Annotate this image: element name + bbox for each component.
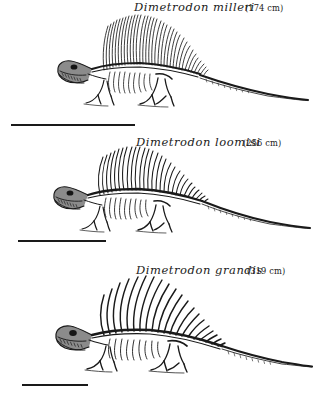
scale-bar bbox=[18, 240, 106, 242]
skull bbox=[58, 61, 92, 83]
rib-cage bbox=[109, 72, 153, 93]
skull bbox=[54, 187, 88, 209]
species-name-label: Dimetrodon milleri bbox=[134, 0, 255, 14]
body-length-label: (174 cm) bbox=[245, 3, 283, 13]
skull bbox=[56, 326, 92, 350]
forelimb bbox=[87, 346, 117, 371]
sail-spines bbox=[103, 15, 208, 76]
hindlimb bbox=[138, 205, 172, 232]
rib-cage bbox=[105, 198, 149, 219]
body-length-label: (319 cm) bbox=[247, 266, 285, 276]
tail bbox=[200, 75, 308, 100]
caption-row: Dimetrodon loomisi (256 cm) bbox=[0, 135, 318, 157]
hindlimb bbox=[151, 344, 187, 372]
skeleton-panel-grandis: Dimetrodon grandis (319 cm) bbox=[0, 263, 318, 403]
scale-bar bbox=[11, 124, 135, 126]
forelimb bbox=[86, 80, 114, 105]
caption-row: Dimetrodon milleri (174 cm) bbox=[0, 0, 318, 22]
tail bbox=[202, 201, 310, 228]
forelimb bbox=[82, 206, 110, 231]
body-length-label: (256 cm) bbox=[243, 138, 281, 148]
skeleton-panel-loomisi: Dimetrodon loomisi (256 cm) bbox=[0, 135, 318, 263]
species-name-label: Dimetrodon loomisi bbox=[136, 135, 261, 149]
species-name-label: Dimetrodon grandis bbox=[136, 263, 263, 277]
caption-row: Dimetrodon grandis (319 cm) bbox=[0, 263, 318, 285]
skeleton-panel-milleri: Dimetrodon milleri (174 cm) bbox=[0, 0, 318, 135]
scale-bar bbox=[22, 384, 88, 386]
hindlimb bbox=[140, 78, 174, 106]
tail bbox=[222, 346, 312, 367]
rib-cage bbox=[109, 339, 161, 360]
